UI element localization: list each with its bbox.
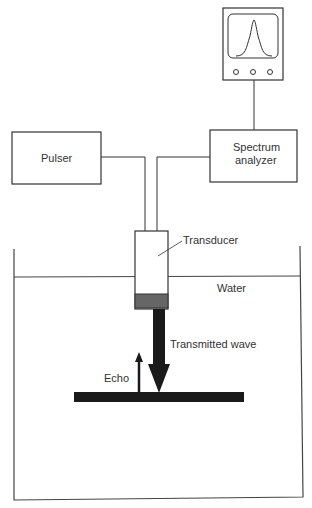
transmitted-wave-label: Transmitted wave bbox=[170, 338, 256, 351]
echo-arrow bbox=[135, 352, 143, 362]
transmitted-wave-arrow bbox=[148, 364, 170, 393]
water-label: Water bbox=[217, 282, 246, 295]
display-monitor bbox=[223, 8, 283, 80]
reflector-plate bbox=[74, 392, 244, 402]
ultrasound-setup-diagram bbox=[0, 0, 312, 508]
pulser-label: Pulser bbox=[41, 152, 72, 165]
echo-label: Echo bbox=[104, 372, 129, 385]
spectrum-analyzer-label-line2: analyzer bbox=[235, 154, 277, 167]
spectrum-analyzer-label-line1: Spectrum bbox=[233, 141, 280, 154]
transducer-label: Transducer bbox=[183, 234, 238, 247]
transducer-element bbox=[135, 294, 168, 308]
